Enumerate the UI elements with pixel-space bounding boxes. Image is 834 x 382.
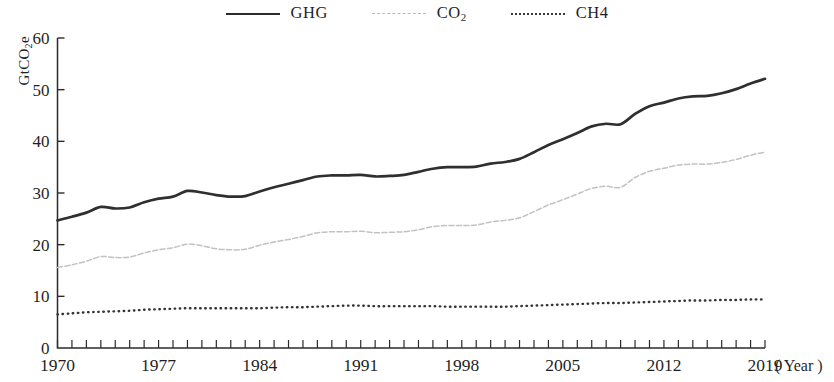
y-axis-ticks: 0102030405060	[33, 29, 65, 358]
y-tick-label: 20	[33, 236, 50, 255]
x-axis-ticks	[58, 340, 766, 348]
chart-plot: 0102030405060 19701977198419911998200520…	[0, 0, 834, 382]
y-tick-label: 60	[33, 29, 50, 48]
x-tick-label: 2012	[646, 355, 681, 375]
x-tick-label: 1984	[242, 355, 277, 375]
x-axis-labels: 19701977198419911998200520122019( Year )	[40, 355, 823, 375]
chart-container: GHG CO2 CH4 GtCO2e 0102030405060 1970197…	[0, 0, 834, 382]
x-tick-label: 1998	[444, 355, 479, 375]
x-tick-label: 1991	[343, 355, 378, 375]
y-tick-label: 40	[33, 132, 50, 151]
y-tick-label: 10	[33, 287, 50, 306]
x-tick-label: 1977	[141, 355, 176, 375]
x-tick-label: 1970	[40, 355, 75, 375]
series-line-ghg	[58, 79, 766, 221]
series-line-ch4	[58, 299, 766, 314]
series-line-co2	[58, 152, 766, 267]
y-tick-label: 30	[33, 184, 50, 203]
x-axis-unit-label: ( Year )	[775, 357, 823, 375]
x-tick-label: 2005	[545, 355, 580, 375]
y-tick-label: 50	[33, 81, 50, 100]
